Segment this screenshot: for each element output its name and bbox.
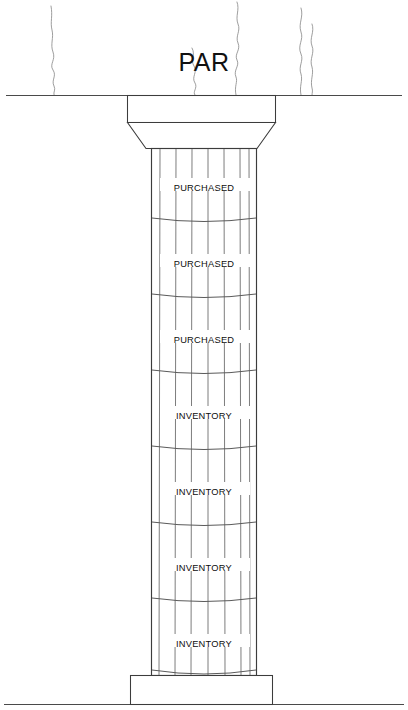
page-title: PAR xyxy=(178,48,229,76)
drum-label: INVENTORY xyxy=(176,411,232,421)
abacus xyxy=(128,96,276,123)
plinth xyxy=(131,676,273,705)
diagram-canvas: PAR xyxy=(0,0,408,710)
drum-label: PURCHASED xyxy=(174,259,235,269)
echinus xyxy=(128,123,276,149)
crack-line xyxy=(311,24,313,95)
crack-line xyxy=(235,2,239,95)
drum-label: PURCHASED xyxy=(174,183,235,193)
drum-label: INVENTORY xyxy=(176,563,232,573)
drum-label: PURCHASED xyxy=(174,335,235,345)
drum-label: INVENTORY xyxy=(176,487,232,497)
drum-label: INVENTORY xyxy=(176,639,232,649)
crack-line xyxy=(300,8,302,95)
crack-line xyxy=(51,6,55,95)
